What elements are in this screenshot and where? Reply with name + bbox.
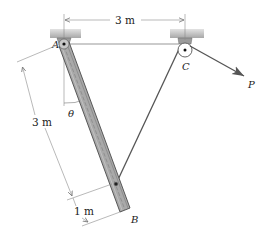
- label-a: A: [51, 39, 59, 50]
- bar-ab: [59, 42, 130, 212]
- ceiling-support-c: [170, 29, 204, 44]
- pulley-c: [178, 43, 192, 57]
- cable-attachment-pin: [114, 182, 118, 186]
- cable: [116, 47, 180, 184]
- bar-lower-length-label: 1 m: [74, 205, 94, 217]
- top-span-label: 3 m: [115, 14, 135, 26]
- bar-upper-length-label: 3 m: [32, 116, 52, 128]
- pin-a: [59, 39, 69, 49]
- label-c: C: [182, 61, 190, 72]
- angle-label: θ: [68, 108, 74, 119]
- mechanics-diagram: 3 m θ A C P B: [0, 0, 268, 231]
- label-b: B: [130, 214, 138, 225]
- top-dimension: 3 m: [64, 14, 185, 44]
- force-arrow: [190, 46, 244, 76]
- label-p: P: [247, 79, 255, 90]
